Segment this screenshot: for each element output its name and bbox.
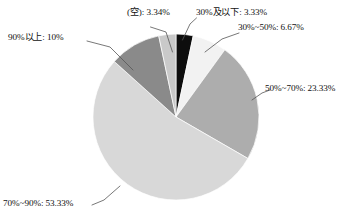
pie-label-70-to-90: 70%~90%: 53.33% (3, 199, 73, 209)
leader-line-70-to-90 (92, 186, 120, 205)
pie-chart: (空): 3.34% 30%及以下: 3.33% 30%~50%: 6.67% … (0, 0, 361, 221)
pie-label-50-to-70: 50%~70%: 23.33% (265, 84, 335, 94)
pie-label-empty: (空): 3.34% (127, 8, 170, 18)
pie-label-30-to-50: 30%~50%: 6.67% (238, 23, 304, 33)
pie-label-ge-90: 90%以上: 10% (8, 33, 64, 43)
pie-slice-group (93, 34, 259, 200)
pie-label-le-30: 30%及以下: 3.33% (196, 8, 267, 18)
